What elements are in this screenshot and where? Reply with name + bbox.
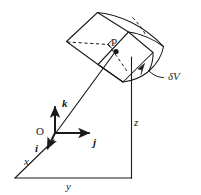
delta-v-leader [149,71,164,78]
label-unit-vector-j: j [93,137,96,148]
hidden-edge-left [67,42,109,45]
label-volume-element: δV [168,71,180,82]
volume-arc-right-top [129,32,164,47]
volume-face-left [67,13,129,65]
label-origin: O [36,126,44,137]
volume-arc-bottom-front [123,72,149,83]
label-unit-vector-i: i [35,143,38,154]
vector-diagram [0,0,201,195]
point-p-dot [113,49,118,54]
hidden-edge-down [109,45,129,73]
position-vector [57,54,115,133]
basis-vectors [48,107,90,149]
label-axis-z: z [134,117,138,128]
delta-v-arrowhead [138,64,145,75]
label-unit-vector-k: k [62,98,68,109]
position-vector-group [57,49,119,132]
label-point-p: P [111,37,117,48]
volume-edge-lower-left [98,65,123,83]
figure-root: O k j i x y z P δV [0,0,201,195]
delta-v-leader-curve [149,71,164,78]
label-axis-y: y [66,181,71,192]
delta-v-pointer-arrow [138,64,145,75]
volume-arc-top [98,13,164,47]
label-axis-x: x [24,156,29,167]
